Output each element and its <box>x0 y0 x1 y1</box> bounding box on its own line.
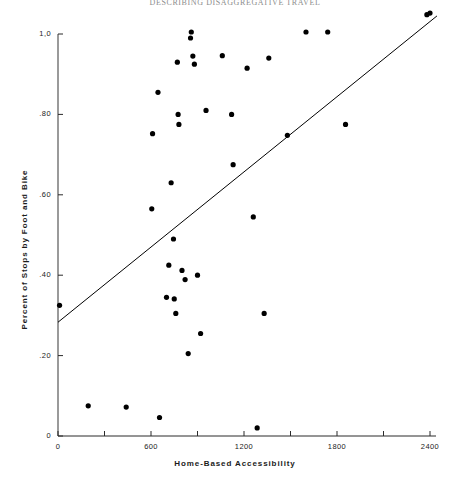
y-axis-title: Percent of Stops by Foot and Bike <box>20 140 29 360</box>
y-tick-label: 0 <box>25 431 51 440</box>
data-point <box>171 236 176 241</box>
x-axis-title: Home-Based Accessibility <box>0 459 470 468</box>
x-tick-label: 2400 <box>413 442 447 451</box>
data-points-group <box>57 10 433 430</box>
data-point <box>203 108 208 113</box>
data-point <box>124 404 129 409</box>
data-point <box>195 273 200 278</box>
x-tick-label: 1200 <box>227 442 261 451</box>
y-tick-label: 1,0 <box>25 29 51 38</box>
data-point <box>176 112 181 117</box>
y-tick-label: .20 <box>25 351 51 360</box>
data-point <box>285 133 290 138</box>
figure-page: DESCRIBING DISAGGREGATIVE TRAVEL 0.20.40… <box>0 0 470 488</box>
trend-line <box>58 16 437 322</box>
y-tick-label: .40 <box>25 270 51 279</box>
data-point <box>189 29 194 34</box>
data-point <box>229 112 234 117</box>
x-tick-marks <box>58 431 430 436</box>
x-tick-label: 600 <box>134 442 168 451</box>
data-point <box>175 60 180 65</box>
data-point <box>188 35 193 40</box>
data-point <box>325 29 330 34</box>
data-point <box>303 29 308 34</box>
data-point <box>255 425 260 430</box>
data-point <box>155 90 160 95</box>
data-point <box>198 331 203 336</box>
data-point <box>427 10 432 15</box>
data-point <box>176 122 181 127</box>
data-point <box>149 206 154 211</box>
data-point <box>186 351 191 356</box>
data-point <box>183 277 188 282</box>
data-point <box>86 403 91 408</box>
data-point <box>245 66 250 71</box>
data-point <box>57 303 62 308</box>
data-point <box>164 295 169 300</box>
data-point <box>169 180 174 185</box>
axes-group <box>58 34 436 436</box>
data-point <box>173 311 178 316</box>
data-point <box>266 56 271 61</box>
data-point <box>166 263 171 268</box>
y-tick-label: .80 <box>25 109 51 118</box>
scatter-plot-figure: 0.20.40.60.801,0 0600120018002400 Percen… <box>0 0 470 488</box>
data-point <box>150 131 155 136</box>
data-point <box>157 415 162 420</box>
x-tick-label: 1800 <box>320 442 354 451</box>
data-point <box>179 268 184 273</box>
data-point <box>190 54 195 59</box>
data-point <box>172 296 177 301</box>
x-tick-label: 0 <box>41 442 75 451</box>
data-point <box>220 53 225 58</box>
data-point <box>262 311 267 316</box>
y-tick-label: .60 <box>25 190 51 199</box>
data-point <box>192 62 197 67</box>
plot-canvas <box>0 0 470 488</box>
data-point <box>343 122 348 127</box>
data-point <box>231 162 236 167</box>
y-tick-marks <box>58 34 63 436</box>
data-point <box>251 214 256 219</box>
regression-line <box>58 16 437 322</box>
